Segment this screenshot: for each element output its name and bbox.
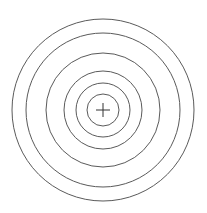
concentric-circles-diagram — [0, 0, 207, 213]
center-cross-icon — [96, 103, 110, 117]
